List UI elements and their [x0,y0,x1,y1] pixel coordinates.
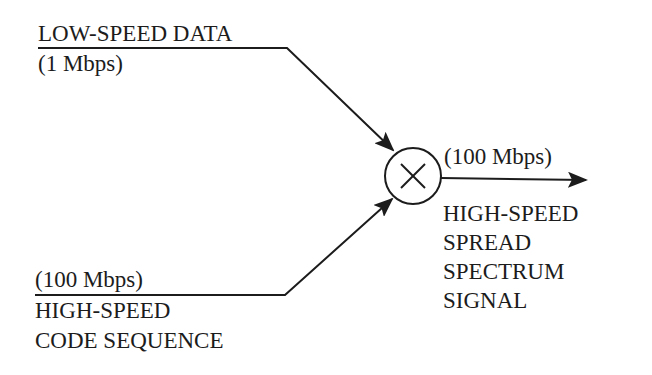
data-input-label: LOW-SPEED DATA [38,20,232,47]
output-arrow [441,178,586,180]
code-input-label-line-1: HIGH-SPEED [35,297,170,324]
output-label-line-4: SIGNAL [443,287,527,314]
multiplier-icon [385,148,441,204]
data-input-rate: (1 Mbps) [38,50,123,77]
code-input-label-line-2: CODE SEQUENCE [35,327,223,354]
output-label-line-3: SPECTRUM [443,258,564,285]
output-label-line-1: HIGH-SPEED [443,200,578,227]
output-rate: (100 Mbps) [444,143,552,170]
output-label-line-2: SPREAD [443,229,531,256]
code-input-rate: (100 Mbps) [35,266,143,293]
